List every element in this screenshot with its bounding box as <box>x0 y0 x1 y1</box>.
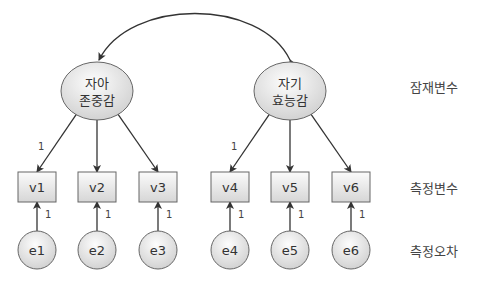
error-term-e6: e6 <box>332 231 370 269</box>
error-path-label: 1 <box>238 209 244 220</box>
latent-variable-F2: 자기효능감 <box>254 62 326 120</box>
observed-variable-v4: v4 <box>211 172 249 202</box>
error-label: e6 <box>343 243 359 258</box>
error-label: e1 <box>29 243 45 258</box>
error-term-e1: e1 <box>18 231 56 269</box>
error-path-label: 1 <box>298 209 304 220</box>
fixed-loading-label: 1 <box>38 141 44 152</box>
latent-label: 자기 <box>278 76 302 91</box>
observed-variable-v2: v2 <box>78 172 116 202</box>
legend-latent: 잠재변수 <box>410 77 458 96</box>
error-path-label: 1 <box>166 209 172 220</box>
error-label: e4 <box>222 243 238 258</box>
observed-label: v5 <box>282 180 298 195</box>
observed-variable-v5: v5 <box>271 172 309 202</box>
error-path-label: 1 <box>45 209 51 220</box>
observed-label: v6 <box>343 180 359 195</box>
error-term-e2: e2 <box>78 231 116 269</box>
latent-variable-F1: 자아존중감 <box>61 62 133 120</box>
error-path-label: 1 <box>105 209 111 220</box>
latent-label: 자아 <box>85 76 109 91</box>
observed-label: v3 <box>150 180 166 195</box>
latent-label: 존중감 <box>79 93 115 108</box>
error-term-e5: e5 <box>271 231 309 269</box>
error-path-label: 1 <box>359 209 365 220</box>
observed-label: v1 <box>29 180 45 195</box>
error-label: e2 <box>89 243 105 258</box>
fixed-loading-label: 1 <box>231 141 237 152</box>
error-term-e4: e4 <box>211 231 249 269</box>
observed-variable-v3: v3 <box>139 172 177 202</box>
observed-variable-v6: v6 <box>332 172 370 202</box>
error-label: e5 <box>282 243 298 258</box>
error-term-e3: e3 <box>139 231 177 269</box>
observed-variable-v1: v1 <box>18 172 56 202</box>
loading-path <box>118 114 158 172</box>
observed-label: v2 <box>89 180 105 195</box>
legend-error: 측정오차 <box>410 241 458 260</box>
legend-observed: 측정변수 <box>410 178 458 197</box>
covariance-arrow <box>99 14 290 61</box>
latent-label: 효능감 <box>272 93 308 108</box>
loading-path <box>311 114 351 172</box>
error-label: e3 <box>150 243 166 258</box>
observed-label: v4 <box>222 180 238 195</box>
